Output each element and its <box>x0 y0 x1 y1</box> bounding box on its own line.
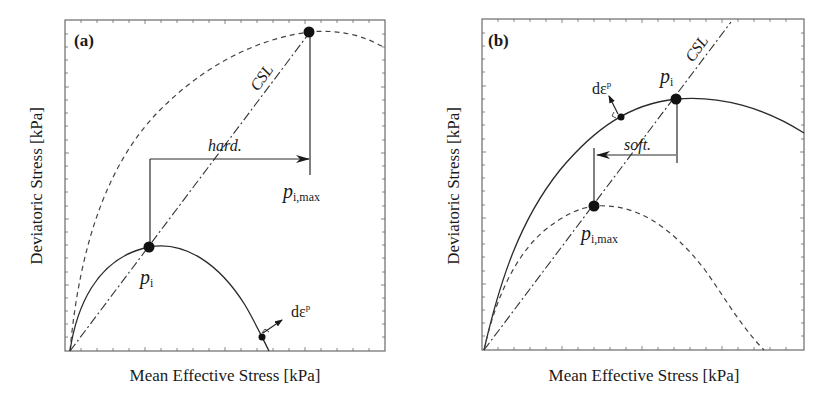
xlabel-a: Mean Effective Stress [kPa] <box>130 366 321 385</box>
xlabel-b: Mean Effective Stress [kPa] <box>549 366 740 385</box>
plot-frame-b <box>482 19 804 350</box>
panel-a: (a) CSL hard. pi pi,max dεp Mean Effecti… <box>27 20 385 385</box>
ylabel-b: Deviatoric Stress [kPa] <box>444 107 463 265</box>
arrow-label-hard: hard. <box>208 137 242 154</box>
limit-surface-b <box>484 206 764 350</box>
flow-vector-b <box>609 96 618 114</box>
right-angle-marker-b <box>612 112 616 118</box>
label-pi-b: pi <box>658 65 674 89</box>
plot-frame-a <box>65 20 385 351</box>
flow-point-a <box>259 334 266 341</box>
label-pimax-a: pi,max <box>281 180 320 204</box>
flow-point-b <box>618 114 625 121</box>
panel-b: (b) CSL soft. pi pi,max dεp Mean Effecti… <box>444 19 804 385</box>
panel-label-a: (a) <box>74 31 94 50</box>
point-pimax-b <box>589 201 600 212</box>
csl-line-b <box>484 22 731 350</box>
ticks-a <box>65 20 385 351</box>
label-flow-a: dεp <box>291 302 311 320</box>
arrow-label-soft: soft. <box>624 136 651 154</box>
yield-surface-a <box>70 246 269 351</box>
csl-label-b: CSL <box>682 32 712 64</box>
flow-vector-a <box>263 320 282 333</box>
panel-label-b: (b) <box>488 31 509 50</box>
label-pimax-b: pi,max <box>579 222 618 246</box>
point-pi-b <box>671 94 682 105</box>
point-pimax-a <box>304 27 315 38</box>
ylabel-a: Deviatoric Stress [kPa] <box>27 107 46 265</box>
label-flow-b: dεp <box>592 79 612 97</box>
label-pi-a: pi <box>138 266 154 290</box>
point-pi-a <box>144 242 155 253</box>
ticks-b <box>482 19 804 350</box>
limit-surface-a <box>70 31 385 351</box>
figure: (a) CSL hard. pi pi,max dεp Mean Effecti… <box>0 0 830 404</box>
csl-label-a: CSL <box>247 61 277 93</box>
